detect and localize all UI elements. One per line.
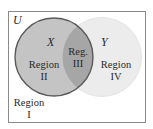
region-iv-label-line2: IV — [110, 71, 121, 82]
set-x-label: X — [46, 35, 55, 49]
region-i-label-line1: Region — [14, 97, 45, 108]
region-i-label-line2: I — [27, 109, 31, 120]
region-iii-label-line1: Reg. — [68, 46, 88, 57]
region-ii-label-line2: II — [41, 71, 48, 82]
region-iv-label-line1: Region — [101, 59, 132, 70]
universe-label: U — [13, 13, 23, 27]
venn-diagram: U X Y Region II Reg. III Region IV Regio… — [0, 0, 153, 129]
region-ii-label-line1: Region — [29, 59, 60, 70]
region-iii-label-line2: III — [73, 58, 84, 69]
